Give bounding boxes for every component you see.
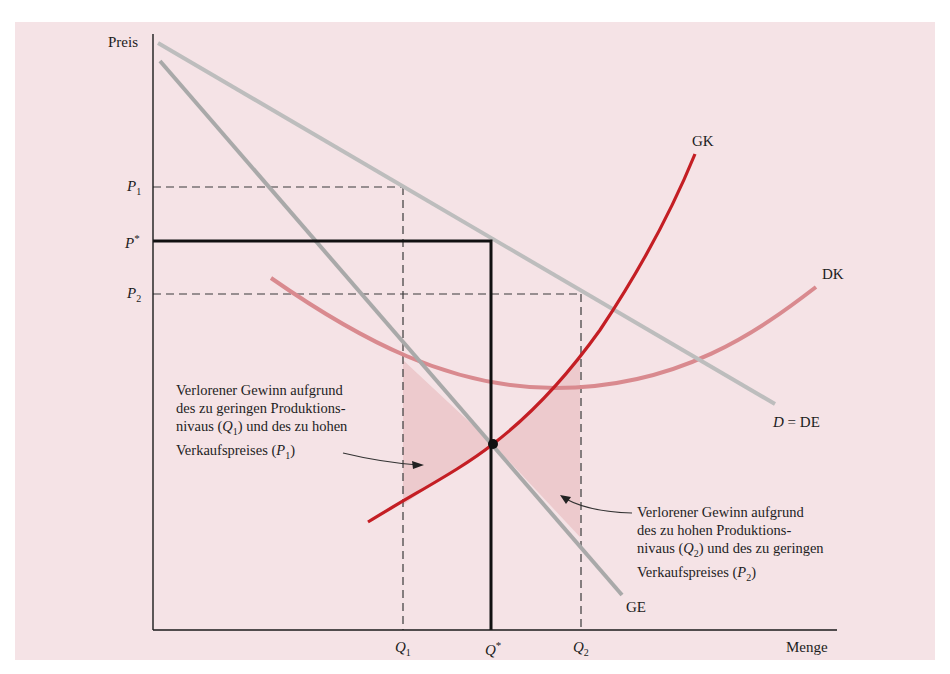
dk-label: DK xyxy=(822,267,844,282)
equilibrium-point xyxy=(488,439,498,449)
annotation-left: Verlorener Gewinn aufgrund des zu gering… xyxy=(176,381,347,465)
demand-curve xyxy=(158,43,775,404)
annotation-arrows xyxy=(343,453,632,513)
tick-q2: Q2 xyxy=(573,640,589,658)
demand-label: D = DE xyxy=(773,415,820,430)
x-axis-label: Menge xyxy=(786,640,828,655)
tick-q1: Q1 xyxy=(395,640,411,658)
ge-curve xyxy=(160,61,622,595)
gk-label: GK xyxy=(692,134,714,149)
ge-label: GE xyxy=(626,600,646,615)
tick-qstar: Q* xyxy=(485,640,501,658)
tick-p2: P2 xyxy=(127,286,141,304)
y-axis-label: Preis xyxy=(108,35,138,50)
tick-pstar: P* xyxy=(125,233,140,251)
tick-p1: P1 xyxy=(127,179,141,197)
annotation-right: Verlorener Gewinn aufgrund des zu hohen … xyxy=(637,503,824,587)
